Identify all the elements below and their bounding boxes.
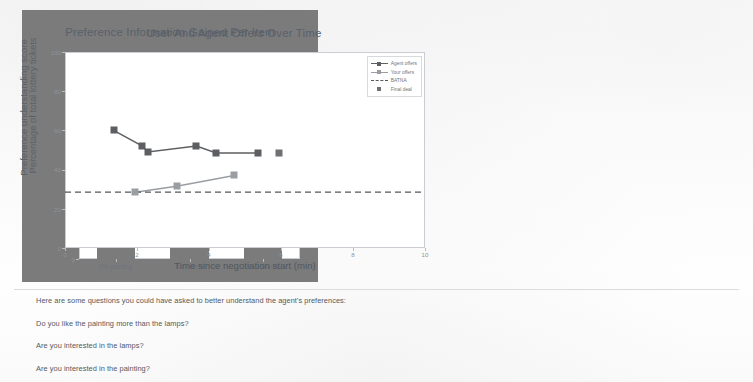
line-chart-x-tick-label: 4 — [201, 251, 217, 258]
line-chart-x-tick-label: 10 — [417, 251, 433, 258]
line-chart-y-tickmark — [62, 52, 65, 53]
suggested-questions-intro: Here are some questions you could have a… — [36, 296, 733, 305]
legend-swatch-icon — [371, 86, 388, 93]
line-chart-legend: Agent offersYour offersBATNAFinal deal — [367, 56, 422, 97]
line-chart-data-point — [254, 149, 261, 156]
line-chart-plot-area: 020406080100 0246810 Agent offersYour of… — [65, 52, 425, 248]
legend-line-icon — [371, 80, 388, 81]
line-chart-y-tick-label: 80 — [49, 88, 61, 95]
line-chart-x-tickmark — [353, 248, 354, 251]
line-chart-y-tickmark — [62, 130, 65, 131]
charts-row: Preference Information Gained Per Item P… — [22, 10, 732, 282]
line-chart-series-line — [135, 175, 234, 192]
line-chart-data-point — [173, 183, 180, 190]
line-chart-title: User And Agent Offers Over Time — [34, 27, 434, 39]
line-chart-x-tick-label: 6 — [273, 251, 289, 258]
line-chart-y-tick-label: 40 — [49, 166, 61, 173]
line-chart-x-axis-label: Time since negotiation start (min) — [65, 260, 425, 271]
legend-swatch-icon — [371, 60, 388, 67]
line-chart-x-tickmark — [425, 248, 426, 251]
line-chart-x-tickmark — [137, 248, 138, 251]
line-chart-data-point — [132, 189, 139, 196]
legend-item[interactable]: BATNA — [371, 77, 417, 84]
line-chart-y-tickmark — [62, 91, 65, 92]
line-chart-series-line — [114, 130, 258, 153]
line-chart-y-tick-label: 60 — [49, 127, 61, 134]
legend-item-label: BATNA — [391, 78, 407, 83]
line-chart-data-point — [144, 148, 151, 155]
line-chart-panel: User And Agent Offers Over Time Percenta… — [34, 10, 434, 282]
line-chart-data-point — [213, 149, 220, 156]
suggested-question-item: Are you interested in the painting? — [36, 364, 733, 373]
line-chart-data-point — [276, 149, 283, 156]
legend-item[interactable]: Final deal — [371, 86, 417, 93]
legend-item[interactable]: Your offers — [371, 69, 417, 76]
line-chart-x-tickmark — [281, 248, 282, 251]
legend-swatch-icon — [371, 69, 388, 76]
line-chart-x-tick-label: 8 — [345, 251, 361, 258]
suggested-question-item: Are you interested in the lamps? — [36, 341, 733, 350]
suggested-question-item: Do you like the painting more than the l… — [36, 319, 733, 328]
legend-marker-icon — [377, 62, 381, 66]
line-chart-x-tickmark — [209, 248, 210, 251]
legend-item-label: Agent offers — [391, 61, 417, 66]
legend-item-label: Your offers — [391, 70, 414, 75]
line-chart-data-point — [231, 172, 238, 179]
legend-marker-icon — [377, 87, 381, 91]
line-chart-y-axis-label: Percentage of total lottery tickets — [27, 0, 38, 222]
legend-swatch-icon — [371, 77, 388, 84]
line-chart-y-tick-label: 100 — [49, 49, 61, 56]
line-chart-x-tick-label: 0 — [57, 251, 73, 258]
line-chart-x-tickmark — [65, 248, 66, 251]
line-chart-data-point — [193, 143, 200, 150]
line-chart-y-tick-label: 20 — [49, 206, 61, 213]
section-divider — [14, 289, 739, 290]
legend-item-label: Final deal — [391, 87, 412, 92]
line-chart-y-tickmark — [62, 209, 65, 210]
line-chart-y-tickmark — [62, 170, 65, 171]
suggested-questions-block: Here are some questions you could have a… — [36, 296, 733, 382]
line-chart-x-tick-label: 2 — [129, 251, 145, 258]
legend-marker-icon — [377, 70, 381, 74]
legend-item[interactable]: Agent offers — [371, 60, 417, 67]
line-chart-data-point — [110, 127, 117, 134]
